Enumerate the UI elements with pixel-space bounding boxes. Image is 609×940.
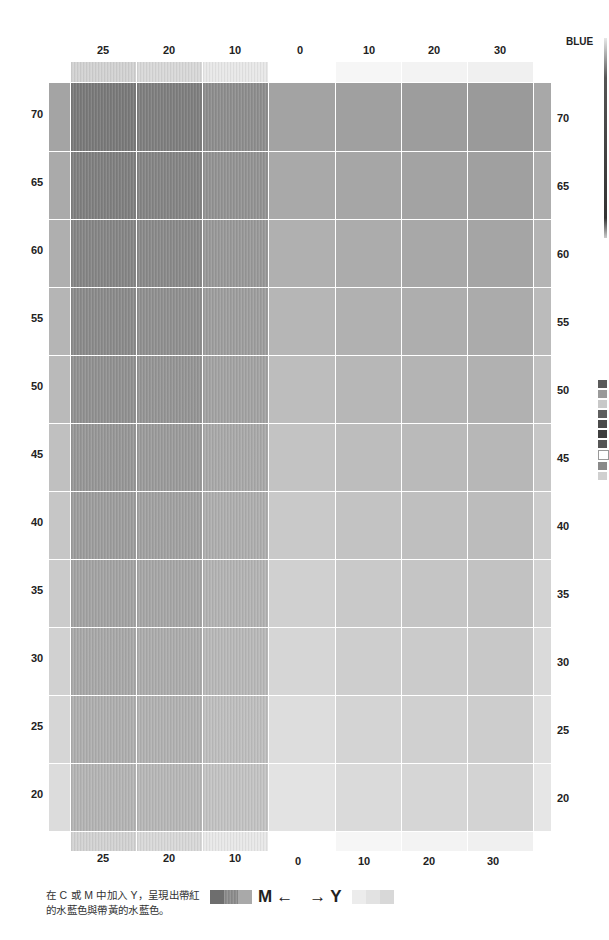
row-label-left: 55 bbox=[22, 312, 52, 324]
legend-swatch-m-2 bbox=[224, 890, 238, 904]
grid-line-vertical bbox=[335, 62, 336, 851]
swatch-strip-cell bbox=[335, 62, 401, 82]
col-label-y20: 20 bbox=[401, 44, 467, 56]
side-swatch bbox=[598, 450, 609, 460]
grid-cell bbox=[268, 695, 335, 763]
row-label-left: 30 bbox=[22, 652, 52, 664]
col-label-0-bottom: 0 bbox=[265, 855, 331, 867]
row-label-left: 35 bbox=[22, 584, 52, 596]
grid-cell bbox=[467, 695, 533, 763]
grid-cell bbox=[70, 763, 136, 831]
col-label-m10: 10 bbox=[202, 44, 268, 56]
row-label-right: 35 bbox=[548, 588, 578, 600]
grid-line-horizontal bbox=[49, 423, 551, 424]
row-label-left: 65 bbox=[22, 176, 52, 188]
grid-edge-left bbox=[49, 151, 70, 219]
grid-edge-left bbox=[49, 627, 70, 695]
row-label-right: 25 bbox=[548, 724, 578, 736]
col-label-m10-bottom: 10 bbox=[202, 852, 268, 864]
swatch-strip-cell bbox=[70, 831, 136, 851]
swatch-strip-cell bbox=[136, 62, 202, 82]
side-swatch bbox=[598, 462, 607, 470]
grid-edge-left bbox=[49, 423, 70, 491]
legend-swatch-m-1 bbox=[210, 890, 224, 904]
grid-cell bbox=[268, 627, 335, 695]
grid-edge-left bbox=[49, 82, 70, 151]
grid-cell bbox=[202, 423, 268, 491]
grid-cell bbox=[70, 695, 136, 763]
grid-cell bbox=[335, 491, 401, 559]
row-label-left: 60 bbox=[22, 244, 52, 256]
row-label-right: 60 bbox=[548, 248, 578, 260]
grid-cell bbox=[401, 151, 467, 219]
grid-cell bbox=[335, 423, 401, 491]
grid-cell bbox=[467, 82, 533, 151]
grid-cell bbox=[202, 695, 268, 763]
grid-cell bbox=[401, 627, 467, 695]
grid-line-vertical bbox=[533, 62, 534, 851]
grid-cell bbox=[70, 219, 136, 287]
grid-cell bbox=[335, 219, 401, 287]
grid-cell bbox=[467, 559, 533, 627]
row-label-right: 40 bbox=[548, 520, 578, 532]
swatch-strip-cell bbox=[467, 62, 533, 82]
grid-cell bbox=[268, 287, 335, 355]
grid-cell bbox=[335, 355, 401, 423]
grid-cell bbox=[136, 627, 202, 695]
grid-edge-left bbox=[49, 219, 70, 287]
grid-line-horizontal bbox=[49, 763, 551, 764]
grid-line-vertical bbox=[268, 62, 269, 851]
grid-cell bbox=[401, 491, 467, 559]
grid-cell bbox=[268, 151, 335, 219]
grid-cell bbox=[136, 287, 202, 355]
grid-cell bbox=[401, 355, 467, 423]
row-label-right: 20 bbox=[548, 792, 578, 804]
grid-line-vertical bbox=[70, 62, 71, 851]
chart-title: BLUE bbox=[566, 36, 593, 47]
grid-cell bbox=[335, 763, 401, 831]
grid-cell bbox=[401, 82, 467, 151]
row-label-left: 45 bbox=[22, 448, 52, 460]
grid-cell bbox=[136, 219, 202, 287]
swatch-strip-cell bbox=[401, 62, 467, 82]
grid-cell bbox=[268, 355, 335, 423]
grid-cell bbox=[70, 423, 136, 491]
legend-label-m: M bbox=[258, 887, 272, 907]
grid-cell bbox=[136, 151, 202, 219]
grid-cell bbox=[70, 627, 136, 695]
row-label-right: 30 bbox=[548, 656, 578, 668]
side-swatch bbox=[598, 472, 607, 480]
grid-cell bbox=[202, 219, 268, 287]
swatch-strip-cell bbox=[70, 62, 136, 82]
grid-cell bbox=[401, 219, 467, 287]
grid-cell bbox=[70, 287, 136, 355]
grid-cell bbox=[467, 423, 533, 491]
grid-cell bbox=[202, 627, 268, 695]
grid-cell bbox=[401, 287, 467, 355]
legend-swatch-m-3 bbox=[238, 890, 252, 904]
legend-swatch-y-3 bbox=[380, 890, 394, 904]
grid-cell bbox=[268, 559, 335, 627]
grid-cell bbox=[335, 82, 401, 151]
side-swatch bbox=[598, 400, 607, 408]
row-label-right: 55 bbox=[548, 316, 578, 328]
grid-edge-left bbox=[49, 287, 70, 355]
swatch-strip-cell bbox=[202, 831, 268, 851]
grid-cell bbox=[335, 627, 401, 695]
col-label-y10: 10 bbox=[336, 44, 402, 56]
swatch-strip-cell bbox=[268, 62, 335, 82]
grid-cell bbox=[467, 763, 533, 831]
grid-edge-left bbox=[49, 559, 70, 627]
col-label-y30-bottom: 30 bbox=[460, 855, 526, 867]
grid-line-vertical bbox=[136, 62, 137, 851]
grid-cell bbox=[401, 763, 467, 831]
grid-cell bbox=[335, 695, 401, 763]
grid-edge-left bbox=[49, 355, 70, 423]
row-label-left: 50 bbox=[22, 380, 52, 392]
col-label-m20-bottom: 20 bbox=[136, 852, 202, 864]
grid-line-vertical bbox=[202, 62, 203, 851]
grid-line-horizontal bbox=[49, 219, 551, 220]
col-label-m25-bottom: 25 bbox=[70, 852, 136, 864]
grid-cell bbox=[401, 559, 467, 627]
grid-cell bbox=[136, 763, 202, 831]
